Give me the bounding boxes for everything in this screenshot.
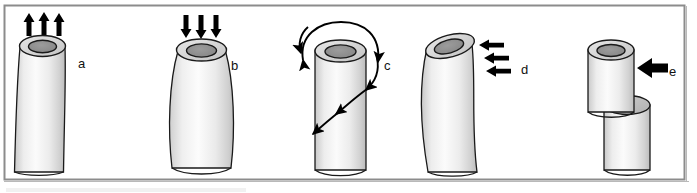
panel-label-e: e: [669, 64, 676, 79]
cylinder-b-bore: [187, 44, 217, 57]
cylinder-d-body: [422, 44, 478, 172]
compression-arrows-down: [181, 15, 222, 39]
panel-label-d: d: [521, 62, 528, 77]
panel-label-c: c: [384, 58, 391, 73]
mechanical-loading-figure: a b: [0, 0, 697, 193]
cylinder-a-bore: [29, 40, 57, 53]
figure-container: a b: [0, 0, 697, 193]
caption-sliver: [6, 188, 246, 192]
cylinder-b-body: [170, 51, 234, 168]
cylinder-e-bore: [597, 45, 625, 57]
cylinder-a-body: [15, 47, 66, 172]
cylinder-c-bore: [325, 45, 356, 58]
tension-arrows-up: [24, 12, 65, 36]
panel-label-b: b: [231, 58, 238, 73]
panel-label-a: a: [78, 56, 86, 71]
